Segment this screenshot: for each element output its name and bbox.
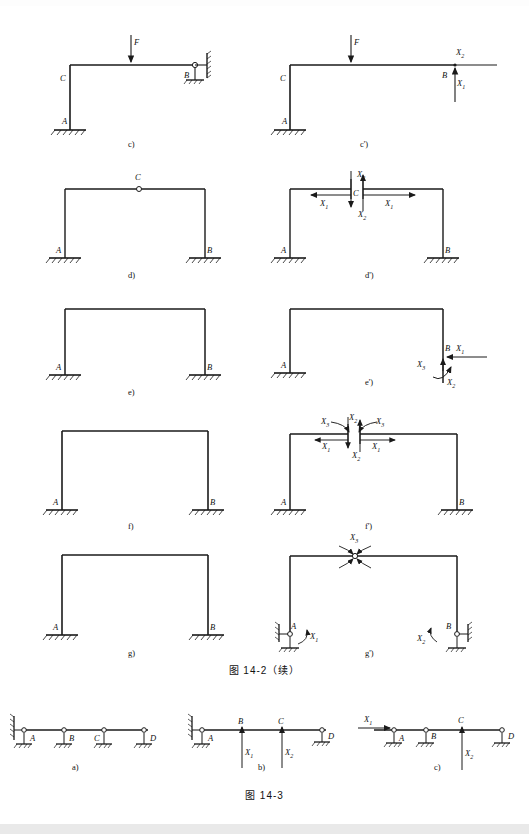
node-label-B: B [210,497,215,507]
node-label-A: A [281,245,286,255]
node-label-B: B [207,245,212,255]
redundant-moment-X3-d [357,559,371,568]
panel-14-3-c: X1 A B C D X2 c) [354,700,529,780]
panel-d-drawing [0,165,265,283]
node-label-A: A [282,116,287,126]
panel-label-b: b) [258,762,265,772]
panel-label-d: d) [128,270,135,280]
redundant-label-X1-left: X1 [322,441,330,453]
node-dot-B [453,63,456,66]
page-top-edge [0,0,529,6]
redundant-label-X2-top: X2 [349,412,357,424]
panel-d-prime-drawing [265,165,529,283]
node-label-C: C [353,188,359,198]
panel-e-prime: A B X1 X3 X2 e') [265,285,529,403]
node-label-A: A [399,733,404,743]
node-label-A: A [281,360,286,370]
panel-14-3-c-drawing [354,700,529,780]
node-label-B: B [431,731,436,741]
node-label-A: A [62,116,67,126]
node-label-A: A [291,621,296,631]
page-bottom-edge [0,824,529,834]
hinge-A [22,728,27,733]
redundant-label-X1-left: X1 [320,198,328,210]
node-label-D: D [328,731,334,741]
node-label-D: D [150,733,156,743]
hinge-B [455,632,460,637]
node-label-A: A [208,733,213,743]
redundant-label-X3-right: X3 [376,416,384,428]
panel-label-g-prime: g') [365,648,374,658]
redundant-label-X1-right: X1 [385,198,393,210]
node-label-C: C [458,715,464,725]
redundant-label-X1: X1 [364,714,372,726]
redundant-label-X2: X2 [465,748,473,760]
panel-label-c: c) [128,139,135,149]
node-label-C: C [94,733,100,743]
panel-label-d-prime: d') [365,270,374,280]
node-label-B: B [445,343,450,353]
redundant-moment-X1 [298,630,307,644]
node-label-B: B [459,497,464,507]
redundant-label-X3-left: X3 [321,416,329,428]
redundant-label-X2: X2 [456,47,464,59]
redundant-moment-X2 [430,628,437,642]
panel-14-3-b: A B C D X1 X2 b) [178,700,354,780]
panel-f-prime-drawing [265,412,529,535]
redundant-label-X2-bottom: X2 [352,450,360,462]
panel-label-a: a) [72,762,79,772]
node-label-A: A [281,497,286,507]
panel-f-prime: X2 X2 X3 X3 X1 X1 A B f') [265,412,529,535]
node-label-C: C [135,172,141,182]
panel-label-f: f) [128,521,134,531]
node-label-A: A [56,245,61,255]
node-label-A: A [53,622,58,632]
hinge-A [288,632,293,637]
panel-c-prime: C A B F X2 X1 c') [265,20,529,150]
hinge-C [102,728,107,733]
node-label-C: C [278,716,284,726]
hinge-D [142,728,147,733]
node-label-B: B [210,622,215,632]
panel-c-drawing [0,20,265,150]
panel-label-c-prime: c') [360,139,368,149]
panel-d-prime: X2 X2 X1 X1 C A B d') [265,165,529,283]
hinge-D [500,728,505,733]
node-label-B: B [445,245,450,255]
panel-f-drawing [0,415,265,535]
node-label-C: C [60,73,66,83]
node-label-A: A [30,733,35,743]
redundant-moment-X3-left [331,422,349,432]
crown-hinge-C [137,187,142,192]
node-label-C: C [280,73,286,83]
hinge-B [62,728,67,733]
redundant-moment-X3-b [357,546,371,554]
hinge-A [392,728,397,733]
figure-caption-14-2: 图 14-2（续） [0,662,529,677]
node-label-B: B [446,621,451,631]
node-label-B: B [207,362,212,372]
panel-label-c: c) [434,762,441,772]
redundant-label-X3: X3 [417,359,425,371]
panel-label-e: e) [128,387,135,397]
redundant-moment-X3-c [339,559,353,568]
redundant-label-X2: X2 [417,633,425,645]
redundant-label-X1-right: X1 [372,441,380,453]
hinge-D [320,728,325,733]
panel-e-drawing [0,285,265,403]
node-label-B: B [184,70,189,80]
panel-e: A B e) [0,285,265,403]
node-label-D: D [508,731,514,741]
redundant-label-X1: X1 [457,78,465,90]
crown-hinge [352,553,357,558]
figure-page: C A B F c) C A B F X2 X1 c') [0,0,529,834]
redundant-label-X1: X1 [310,631,318,643]
panel-g-prime-drawing [265,530,529,662]
node-label-A: A [53,497,58,507]
panel-g-drawing [0,537,265,662]
figure-caption-14-3: 图 14-3 [0,787,529,802]
node-label-B: B [442,70,447,80]
panel-f: A B f) [0,415,265,535]
node-label-A: A [56,362,61,372]
redundant-moment-X3-a [339,546,353,554]
